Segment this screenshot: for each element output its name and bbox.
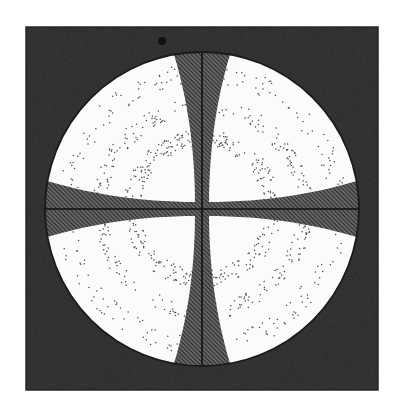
figure-canvas <box>0 0 404 416</box>
print-blemish <box>158 37 166 45</box>
